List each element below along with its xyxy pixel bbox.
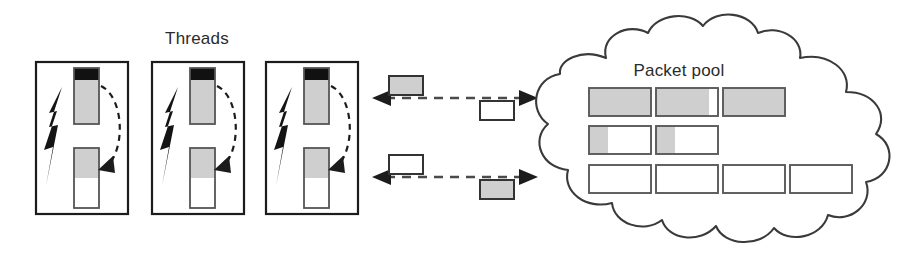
thread-2-out-bar (190, 148, 215, 208)
thread-1[interactable] (36, 62, 128, 214)
pool-packet-6[interactable] (589, 165, 651, 193)
pool-packet-2[interactable] (656, 88, 718, 116)
thread-3-in-bar (304, 68, 329, 124)
packet-outbound-bottom[interactable] (389, 155, 423, 174)
packet-pool-title: Packet pool (633, 61, 724, 80)
pool-packet-9[interactable] (790, 165, 852, 193)
diagram-canvas: Threads (0, 0, 901, 255)
thread-3[interactable] (266, 62, 358, 214)
pool-packet-5[interactable] (656, 126, 718, 154)
threads-title: Threads (165, 29, 229, 48)
pool-packet-4[interactable] (589, 126, 651, 154)
packet-outbound-top[interactable] (389, 76, 423, 95)
thread-3-out-bar (304, 148, 329, 208)
link-top (372, 76, 538, 120)
thread-2-in-bar (190, 68, 215, 124)
packet-inbound-top[interactable] (480, 101, 514, 120)
pool-packet-1[interactable] (589, 88, 651, 116)
packet-inbound-bottom[interactable] (480, 180, 514, 199)
thread-1-out-bar (74, 148, 99, 208)
link-bottom-right-arrowhead (519, 169, 538, 185)
pool-packet-8[interactable] (723, 165, 785, 193)
thread-2[interactable] (152, 62, 244, 214)
thread-1-in-bar (74, 68, 99, 124)
pool-row-1 (589, 88, 785, 116)
pool-packet-3[interactable] (723, 88, 785, 116)
link-bottom (372, 155, 538, 199)
packet-pool[interactable]: Packet pool (536, 15, 889, 242)
diagram-svg: Threads (0, 0, 901, 255)
pool-packet-7[interactable] (656, 165, 718, 193)
